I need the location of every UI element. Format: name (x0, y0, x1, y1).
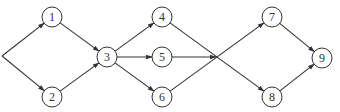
node-label: 3 (104, 50, 110, 64)
node-label: 7 (269, 10, 275, 24)
node-9: 9 (312, 48, 332, 68)
node-3: 3 (97, 47, 117, 67)
edge-3-to-6 (115, 63, 154, 91)
network-diagram: 123456789 (0, 0, 340, 112)
node-label: 1 (49, 10, 55, 24)
edge-1-to-3 (60, 23, 99, 51)
node-label: 8 (269, 90, 275, 104)
node-label: 6 (159, 90, 165, 104)
edge-2-to-3 (60, 63, 99, 91)
node-8: 8 (262, 87, 282, 107)
node-7: 7 (262, 7, 282, 27)
node-2: 2 (42, 87, 62, 107)
edge-3-to-4 (115, 23, 154, 51)
node-4: 4 (152, 7, 172, 27)
node-5: 5 (152, 47, 172, 67)
node-label: 9 (319, 51, 325, 65)
edge-7-to-9 (280, 23, 315, 51)
node-label: 2 (49, 90, 55, 104)
node-1: 1 (42, 7, 62, 27)
edge-source-to-1 (2, 23, 44, 56)
node-label: 5 (159, 50, 165, 64)
node-label: 4 (159, 10, 165, 24)
edge-8-to-9 (280, 64, 314, 91)
node-6: 6 (152, 87, 172, 107)
edge-source-to-2 (2, 56, 44, 91)
